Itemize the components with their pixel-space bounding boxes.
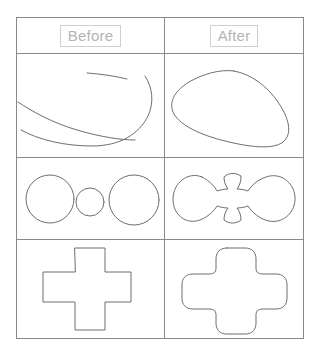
merged-circles-outline xyxy=(173,173,295,223)
figure-root: Before After xyxy=(0,0,316,346)
cross-outline-rounded xyxy=(182,248,287,334)
three-separate-circles-art xyxy=(17,158,164,239)
sharp-corner-cross-art xyxy=(17,240,164,338)
cell-before-sharp-corner-cross xyxy=(17,240,165,339)
cell-before-open-sketch-strokes xyxy=(17,54,165,158)
merged-circles-art xyxy=(165,158,303,239)
rounded-corner-cross-art xyxy=(165,240,303,338)
sketch-stroke-short-tail xyxy=(87,73,127,79)
column-header-after: After xyxy=(210,25,259,47)
blob-outline xyxy=(172,71,289,147)
column-header-before: Before xyxy=(60,25,121,47)
header-cell-before: Before xyxy=(17,18,165,54)
sketch-stroke-arc-crossing xyxy=(18,102,135,140)
before-after-table: Before After xyxy=(16,17,304,339)
circle-middle-small xyxy=(76,188,104,216)
open-sketch-strokes-art xyxy=(17,54,164,157)
table-row-circle-chain xyxy=(17,158,304,240)
cell-after-closed-rounded-blob xyxy=(165,54,304,158)
table-row-freeform-stroke xyxy=(17,54,304,158)
header-cell-after: After xyxy=(165,18,304,54)
cross-outline-sharp xyxy=(43,248,131,330)
circle-left-large xyxy=(26,175,74,223)
cell-after-rounded-corner-cross xyxy=(165,240,304,339)
table-header-row: Before After xyxy=(17,18,304,54)
circle-right-large xyxy=(109,175,159,225)
closed-rounded-blob-art xyxy=(165,54,303,157)
cell-before-three-separate-circles xyxy=(17,158,165,240)
table-row-cross xyxy=(17,240,304,339)
cell-after-three-merged-circles-with-fillets xyxy=(165,158,304,240)
sketch-stroke-arc-long xyxy=(21,76,152,146)
